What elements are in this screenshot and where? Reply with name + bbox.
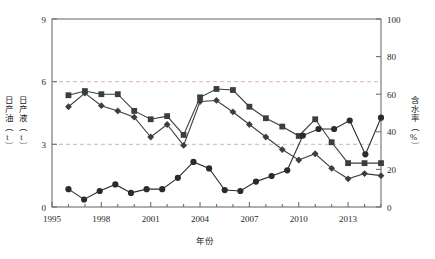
y-axis-label-oil: 日产油（t） [3,96,12,151]
data-point [312,116,318,122]
data-point [331,126,337,132]
data-point [175,175,181,181]
data-point [115,91,121,97]
data-point [190,159,196,165]
data-point [222,187,228,193]
data-point [230,87,236,93]
chart-figure: 0 3 6 9 0 20 40 60 80 100 19951998200120… [0,0,435,259]
data-point [263,115,269,121]
ytick-label-left-0: 0 [42,203,47,213]
x-axis-tick-labels: 1995199820012004200720102013 [43,214,358,224]
data-point [66,92,72,98]
data-point [81,196,87,202]
y-axis-label-liquid: 日产液（t） [17,96,26,151]
data-point [378,160,384,166]
ytick-label-right-80: 80 [387,52,397,62]
data-point [279,124,285,130]
ytick-label-left-9: 9 [42,15,47,25]
ytick-label-left-6: 6 [42,77,47,87]
data-point [247,104,253,110]
data-point [65,186,71,192]
data-point [237,188,243,194]
data-point [300,132,306,138]
xtick-label-2004: 2004 [191,214,210,224]
ytick-label-right-40: 40 [387,127,397,137]
data-point [269,173,275,179]
right-axis-tick-labels: 0 20 40 60 80 100 [387,15,401,213]
xtick-label-2013: 2013 [339,214,358,224]
data-point [378,115,384,121]
data-point [148,116,154,122]
xtick-label-2007: 2007 [240,214,259,224]
left-axis-tick-labels: 0 3 6 9 [42,15,47,213]
data-point [128,190,134,196]
xtick-label-2010: 2010 [290,214,309,224]
ytick-label-right-20: 20 [387,165,397,175]
data-point [112,181,118,187]
data-point [164,113,170,119]
ytick-label-right-0: 0 [387,203,392,213]
data-point [345,160,351,166]
data-point [362,151,368,157]
ytick-label-right-60: 60 [387,90,397,100]
data-point [159,186,165,192]
data-point [181,132,187,138]
ytick-label-right-100: 100 [387,15,401,25]
y-axis-label-watercut: 含水率（%） [409,96,418,151]
data-point [206,165,212,171]
xtick-label-1995: 1995 [43,214,62,224]
data-point [97,188,103,194]
chart-canvas: 0 3 6 9 0 20 40 60 80 100 19951998200120… [0,0,435,259]
xtick-label-2001: 2001 [142,214,160,224]
data-point [347,117,353,123]
data-point [315,126,321,132]
data-point [253,179,259,185]
data-point [284,167,290,173]
data-point [362,160,368,166]
data-point [143,186,149,192]
data-point [214,86,220,92]
data-point [329,139,335,145]
data-point [131,108,137,114]
xtick-label-1998: 1998 [92,214,111,224]
ytick-label-left-3: 3 [42,140,47,150]
x-axis-label: 年份 [196,234,214,246]
data-point [98,91,104,97]
